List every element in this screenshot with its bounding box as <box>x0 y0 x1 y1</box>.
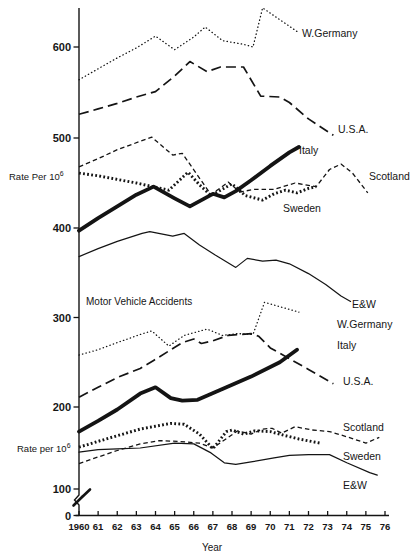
series-label-lower-sweden: Sweden <box>343 450 381 462</box>
x-axis-label: Year <box>202 542 223 553</box>
series-line-lower-w-germany <box>79 302 299 355</box>
x-tick-label: 65 <box>169 521 180 532</box>
series-label-lower-w-germany: W.Germany <box>337 318 393 330</box>
x-tick-label: 71 <box>284 521 295 532</box>
x-tick-label: 70 <box>265 521 276 532</box>
y-tick-label: 200 <box>53 401 71 413</box>
y-tick-label: 600 <box>53 41 71 53</box>
y-tick-label: 300 <box>53 312 71 324</box>
series-line-lower-sweden <box>79 423 320 448</box>
y-tick-label: 400 <box>53 222 71 234</box>
x-tick-label: 75 <box>361 521 372 532</box>
series-label-upper-italy: Italy <box>299 144 319 156</box>
series-line-upper-ew <box>79 232 351 302</box>
series-label-upper-scotland: Scotland <box>369 170 410 182</box>
x-tick-label: 74 <box>341 521 352 532</box>
y-unit-label: Rate per 106 <box>17 442 71 455</box>
y-tick-label: 0 <box>65 510 71 522</box>
x-tick-label: 68 <box>227 521 238 532</box>
series-line-lower-ew <box>79 443 377 475</box>
series-label-upper-usa: U.S.A. <box>338 123 368 135</box>
series-line-lower-scotland <box>79 427 379 464</box>
y-tick-label: 100 <box>53 483 71 495</box>
x-tick-label: 63 <box>131 521 142 532</box>
x-tick-label: 69 <box>246 521 257 532</box>
series-label-lower-ew: E&W <box>343 479 367 491</box>
chart-generated-content: 0100200300400500600196061626364656667686… <box>9 8 410 532</box>
series-line-upper-usa <box>79 62 333 136</box>
series-label-upper-sweden: Sweden <box>283 202 321 214</box>
chart-title: Motor Vehicle Accidents <box>86 296 192 307</box>
series-label-lower-italy: Italy <box>337 339 357 351</box>
x-tick-label: 72 <box>303 521 314 532</box>
x-tick-label: 73 <box>322 521 333 532</box>
y-tick-label: 500 <box>53 132 71 144</box>
series-line-lower-italy <box>79 350 297 432</box>
y-axis <box>75 8 80 516</box>
series-line-upper-scotland <box>79 137 368 195</box>
series-label-upper-ew: E&W <box>352 298 376 310</box>
x-tick-label: 67 <box>208 521 219 532</box>
x-tick-label: 76 <box>380 521 391 532</box>
x-tick-label: 66 <box>188 521 199 532</box>
series-label-lower-scotland: Scotland <box>343 421 384 433</box>
series-line-upper-w-germany <box>79 8 297 80</box>
x-tick-label: 61 <box>93 521 104 532</box>
x-tick-label: 62 <box>112 521 123 532</box>
series-label-upper-w-germany: W.Germany <box>302 27 358 39</box>
x-tick-label: 64 <box>150 521 161 532</box>
chart-canvas: Motor Vehicle Accidents Year 01002003004… <box>0 0 417 558</box>
chart: Motor Vehicle Accidents Year 01002003004… <box>0 0 417 558</box>
series-label-lower-usa: U.S.A. <box>343 375 373 387</box>
x-tick-label: 1960 <box>68 521 89 532</box>
y-unit-label: Rate Per 106 <box>9 170 64 183</box>
